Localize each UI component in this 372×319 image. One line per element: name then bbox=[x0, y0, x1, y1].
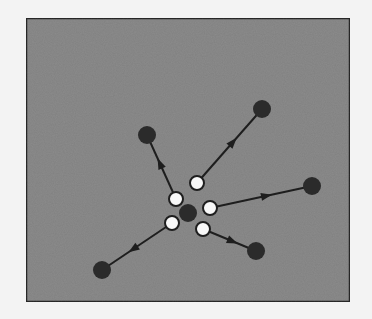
outer-particle bbox=[303, 177, 321, 195]
outer-particle bbox=[93, 261, 111, 279]
field-frame bbox=[26, 18, 350, 302]
white-marker bbox=[169, 192, 183, 206]
white-marker bbox=[196, 222, 210, 236]
outer-particle bbox=[138, 126, 156, 144]
white-marker bbox=[165, 216, 179, 230]
white-marker bbox=[190, 176, 204, 190]
outer-particle bbox=[253, 100, 271, 118]
radial-motion-diagram bbox=[0, 0, 372, 319]
center-particle bbox=[179, 204, 197, 222]
white-marker bbox=[203, 201, 217, 215]
outer-particle bbox=[247, 242, 265, 260]
